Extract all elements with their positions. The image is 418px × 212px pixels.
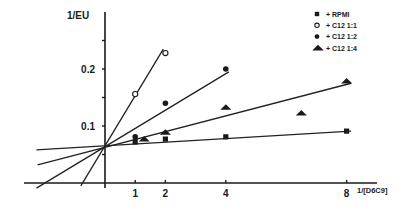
legend-label: + C12 1:4 xyxy=(326,45,357,52)
x-tick-label: 8 xyxy=(344,188,350,199)
filled-circle-marker-icon xyxy=(132,134,138,140)
triangle-marker-icon xyxy=(312,45,324,51)
legend-label: + RPMI xyxy=(326,11,350,18)
data-markers xyxy=(132,50,352,144)
axes: 12480.10.2 xyxy=(24,12,377,199)
y-axis-title: 1/EU xyxy=(67,10,89,21)
square-marker-icon xyxy=(163,137,168,142)
filled-circle-marker-icon xyxy=(163,100,169,106)
fit-line xyxy=(36,131,351,150)
square-marker-icon xyxy=(223,134,228,139)
filled-circle-marker-icon xyxy=(315,34,320,39)
square-marker-icon xyxy=(315,12,319,16)
triangle-marker-icon xyxy=(296,110,307,116)
lineweaver-burk-chart: 12480.10.2 + RPMI+ C12 1:1+ C12 1:2+ C12… xyxy=(0,0,418,212)
open-circle-marker-icon xyxy=(163,50,168,55)
square-marker-icon xyxy=(133,139,138,144)
x-tick-label: 1 xyxy=(132,188,138,199)
x-tick-label: 2 xyxy=(163,188,169,199)
legend-item: + C12 1:2 xyxy=(315,33,357,40)
legend-label: + C12 1:2 xyxy=(326,33,357,40)
triangle-marker-icon xyxy=(341,78,352,84)
legend-item: + C12 1:1 xyxy=(315,22,357,29)
x-axis-title: 1/[D6C9] xyxy=(357,186,388,195)
square-marker-icon xyxy=(344,129,349,134)
legend-label: + C12 1:1 xyxy=(326,22,357,29)
legend-item: + RPMI xyxy=(315,11,350,18)
triangle-marker-icon xyxy=(220,104,231,110)
open-circle-marker-icon xyxy=(315,23,319,27)
triangle-marker-icon xyxy=(139,136,150,142)
fit-line xyxy=(36,72,228,188)
legend: + RPMI+ C12 1:1+ C12 1:2+ C12 1:4 xyxy=(312,11,357,52)
open-circle-marker-icon xyxy=(133,91,138,96)
y-tick-label: 0.2 xyxy=(81,64,95,75)
legend-item: + C12 1:4 xyxy=(312,45,357,52)
y-tick-label: 0.1 xyxy=(81,121,95,132)
x-tick-label: 4 xyxy=(223,188,229,199)
filled-circle-marker-icon xyxy=(223,66,229,72)
